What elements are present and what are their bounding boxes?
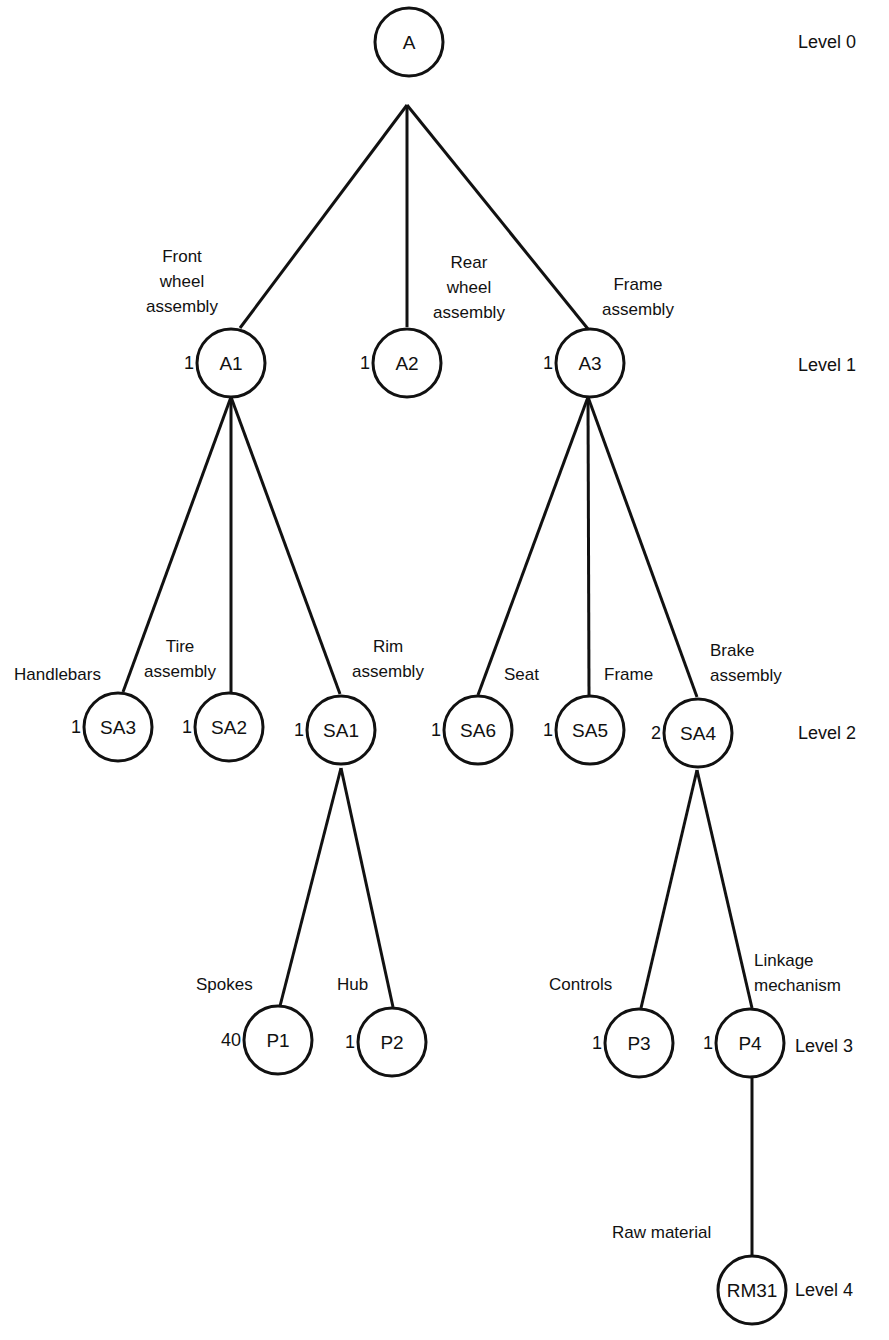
quantity-label: 1 — [184, 353, 194, 373]
node-p2: P21Hub — [337, 975, 426, 1076]
description-label: Spokes — [196, 975, 253, 994]
quantity-label: 40 — [221, 1030, 241, 1050]
description-label: Handlebars — [14, 665, 101, 684]
node-label: P4 — [738, 1033, 762, 1054]
quantity-label: 1 — [294, 720, 304, 740]
description-label: Brakeassembly — [710, 641, 782, 685]
node-p4: P41Linkagemechanism — [703, 951, 841, 1077]
node-label: A2 — [395, 353, 418, 374]
description-label: Tireassembly — [144, 637, 216, 681]
description-label: Rearwheelassembly — [433, 253, 505, 322]
node-sa4: SA42Brakeassembly — [651, 641, 782, 767]
node-label: SA1 — [323, 720, 359, 741]
level-label-3: Level 3 — [795, 1036, 853, 1056]
level-label-1: Level 1 — [798, 355, 856, 375]
quantity-label: 1 — [543, 353, 553, 373]
node-label: A3 — [578, 353, 601, 374]
quantity-label: 1 — [431, 720, 441, 740]
description-label: Rimassembly — [352, 637, 424, 681]
quantity-label: 1 — [71, 717, 81, 737]
node-label: A1 — [219, 353, 242, 374]
edge-sa4-p4 — [697, 770, 752, 1008]
level-label-4: Level 4 — [795, 1280, 853, 1300]
node-label: SA6 — [460, 720, 496, 741]
edge-sa1-p2 — [341, 768, 393, 1007]
quantity-label: 1 — [592, 1033, 602, 1053]
node-sa1: SA11Rimassembly — [294, 637, 424, 764]
level-labels-layer: Level 0Level 1Level 2Level 3Level 4 — [795, 32, 856, 1300]
nodes-layer: AA11FrontwheelassemblyA21Rearwheelassemb… — [14, 8, 841, 1324]
node-sa5: SA51Frame — [543, 665, 653, 764]
level-label-2: Level 2 — [798, 723, 856, 743]
edge-sa1-p1 — [280, 768, 341, 1006]
description-label: Linkagemechanism — [754, 951, 841, 995]
node-a1: A11Frontwheelassembly — [146, 247, 265, 397]
quantity-label: 2 — [651, 723, 661, 743]
quantity-label: 1 — [360, 353, 370, 373]
node-a2: A21Rearwheelassembly — [360, 253, 505, 397]
node-label: SA4 — [680, 723, 716, 744]
description-label: Controls — [549, 975, 612, 994]
edge-a3-sa4 — [588, 397, 697, 697]
node-rm31: RM31Raw material — [612, 1223, 786, 1324]
description-label: Frame — [604, 665, 653, 684]
description-label: Hub — [337, 975, 368, 994]
node-label: SA2 — [211, 717, 247, 738]
node-a3: A31Frameassembly — [543, 275, 674, 397]
edge-a3-sa5 — [588, 397, 589, 695]
description-label: Raw material — [612, 1223, 711, 1242]
node-sa2: SA21Tireassembly — [144, 637, 263, 761]
edge-a-a1 — [240, 105, 407, 328]
edge-a3-sa6 — [478, 397, 588, 695]
node-sa3: SA31Handlebars — [14, 665, 152, 761]
description-label: Frontwheelassembly — [146, 247, 218, 316]
node-label: A — [403, 32, 416, 53]
edge-sa4-p3 — [641, 770, 697, 1008]
quantity-label: 1 — [543, 720, 553, 740]
quantity-label: 1 — [182, 717, 192, 737]
product-structure-tree: AA11FrontwheelassemblyA21Rearwheelassemb… — [0, 0, 889, 1340]
level-label-0: Level 0 — [798, 32, 856, 52]
node-label: P3 — [627, 1033, 650, 1054]
node-label: P2 — [380, 1032, 403, 1053]
node-a: A — [375, 8, 443, 76]
node-p3: P31Controls — [549, 975, 673, 1077]
description-label: Seat — [504, 665, 539, 684]
node-label: RM31 — [727, 1280, 778, 1301]
description-label: Frameassembly — [602, 275, 674, 319]
node-label: SA5 — [572, 720, 608, 741]
node-p1: P140Spokes — [196, 975, 312, 1074]
edge-a-a3 — [407, 105, 588, 329]
node-label: P1 — [266, 1030, 289, 1051]
node-label: SA3 — [100, 717, 136, 738]
edge-a1-sa1 — [231, 397, 340, 694]
quantity-label: 1 — [345, 1032, 355, 1052]
quantity-label: 1 — [703, 1033, 713, 1053]
